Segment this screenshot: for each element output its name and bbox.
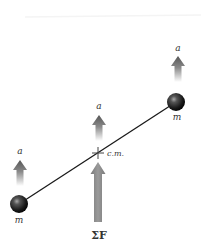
faint-top-line [25, 15, 201, 17]
acceleration-arrow-left [13, 160, 27, 186]
mass-label-right: m [173, 112, 182, 122]
acceleration-arrow-middle [92, 115, 106, 141]
center-of-mass-diagram: a a a c.m. ΣF m m [0, 0, 201, 250]
acceleration-label-middle: a [96, 101, 101, 111]
mass-ball-left [10, 195, 28, 213]
acceleration-label-left: a [17, 146, 22, 156]
acceleration-arrow-right [171, 56, 185, 82]
net-force-label: ΣF [91, 229, 107, 242]
mass-ball-right [167, 93, 185, 111]
net-force-arrow [91, 162, 106, 222]
mass-label-left: m [15, 215, 24, 225]
center-of-mass-marker [92, 147, 104, 159]
acceleration-label-right: a [175, 43, 180, 53]
center-of-mass-label: c.m. [107, 149, 124, 158]
